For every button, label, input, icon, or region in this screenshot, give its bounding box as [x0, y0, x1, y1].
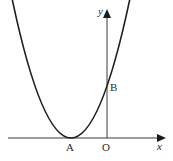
parabola-curve	[11, 0, 131, 138]
x-axis-label: x	[156, 140, 162, 152]
y-axis-arrow-icon	[103, 9, 111, 18]
point-b-label: B	[110, 81, 117, 93]
point-a-label: A	[66, 141, 74, 153]
origin-label: O	[102, 141, 110, 153]
parabola-diagram: y x B A O	[0, 0, 173, 161]
y-axis-label: y	[97, 5, 103, 17]
